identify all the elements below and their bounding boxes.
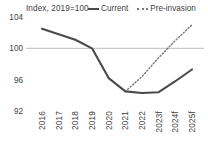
chart-svg xyxy=(26,17,204,111)
plot-area xyxy=(26,17,204,111)
x-axis-tick-2019: 2019 xyxy=(88,111,97,130)
dotted-line-swatch-icon xyxy=(137,8,148,10)
x-axis: 20162017201820192020202120222023f2024f20… xyxy=(26,111,204,145)
x-axis-tick-2021: 2021 xyxy=(121,111,130,130)
chart-container: Index, 2019=100 Current Pre-invasion 104… xyxy=(0,0,208,145)
series-line-pre-invasion xyxy=(125,25,192,92)
legend-item-pre-invasion[interactable]: Pre-invasion xyxy=(137,4,196,13)
x-axis-tick-2022: 2022 xyxy=(138,111,147,130)
y-axis-tick-100: 100 xyxy=(9,44,23,53)
chart-header: Index, 2019=100 Current Pre-invasion xyxy=(0,3,208,17)
page-title: Index, 2019=100 xyxy=(26,4,89,13)
legend-label-current: Current xyxy=(101,4,128,13)
x-axis-tick-2024f: 2024f xyxy=(171,111,180,133)
x-axis-tick-2020: 2020 xyxy=(105,111,114,130)
x-axis-tick-2017: 2017 xyxy=(55,111,64,130)
x-axis-tick-2018: 2018 xyxy=(71,111,80,130)
x-axis-tick-2025f: 2025f xyxy=(188,111,197,133)
chart-legend: Current Pre-invasion xyxy=(88,4,196,13)
legend-label-pre-invasion: Pre-invasion xyxy=(150,4,196,13)
y-axis-tick-104: 104 xyxy=(9,13,23,22)
series-line-current xyxy=(42,29,192,93)
x-axis-tick-2016: 2016 xyxy=(38,111,47,130)
x-axis-tick-2023f: 2023f xyxy=(155,111,164,133)
y-axis: 1041009692 xyxy=(0,0,26,145)
legend-item-current[interactable]: Current xyxy=(88,4,128,13)
solid-line-swatch-icon xyxy=(88,8,99,10)
y-axis-tick-96: 96 xyxy=(14,75,23,84)
y-axis-tick-92: 92 xyxy=(14,107,23,116)
